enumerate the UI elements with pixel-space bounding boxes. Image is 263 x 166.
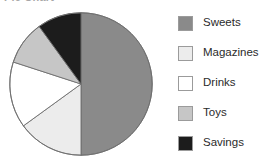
legend-item-savings[interactable]: Savings: [178, 134, 263, 152]
legend-label: Sweets: [203, 17, 241, 29]
legend-swatch-savings: [178, 136, 193, 151]
pie-chart: [9, 12, 153, 156]
legend-item-magazines[interactable]: Magazines: [178, 44, 263, 62]
pie-chart-svg: [9, 12, 153, 156]
legend-item-drinks[interactable]: Drinks: [178, 74, 263, 92]
legend-label: Savings: [203, 137, 244, 149]
legend-label: Toys: [203, 107, 227, 119]
legend-swatch-drinks: [178, 76, 193, 91]
legend-item-toys[interactable]: Toys: [178, 104, 263, 122]
pie-chart-figure: Pie Chart SweetsMagazinesDrinksToysSavin…: [0, 0, 263, 166]
pie-slice-group: [10, 13, 152, 155]
legend-label: Drinks: [203, 77, 236, 89]
legend-swatch-sweets: [178, 16, 193, 31]
legend-label: Magazines: [203, 47, 259, 59]
pie-slice-sweets[interactable]: [81, 13, 152, 155]
legend: SweetsMagazinesDrinksToysSavings: [178, 14, 263, 162]
legend-swatch-toys: [178, 106, 193, 121]
legend-swatch-magazines: [178, 46, 193, 61]
chart-title: Pie Chart: [4, 0, 54, 3]
legend-item-sweets[interactable]: Sweets: [178, 14, 263, 32]
